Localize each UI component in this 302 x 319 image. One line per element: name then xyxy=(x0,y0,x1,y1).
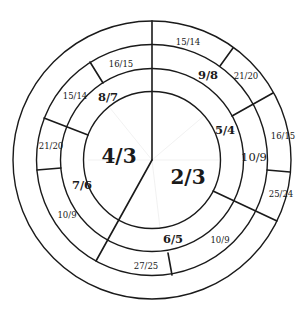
outer-band-label: 25/24 xyxy=(269,189,294,199)
inner-band-label: 8/7 xyxy=(98,90,118,104)
divider-left-upper xyxy=(44,118,88,135)
core-labels: 4/3 2/3 xyxy=(101,144,205,189)
inner-band-label: 5/4 xyxy=(215,123,235,137)
middle-band-label: 10/9 xyxy=(57,210,76,220)
divider-right-middle xyxy=(267,170,290,172)
divider-left-middle xyxy=(37,168,61,170)
divider-lower-left-diagonal xyxy=(96,160,152,261)
divider-right-upper xyxy=(232,93,273,116)
outer-band-label: 16/15 xyxy=(271,131,296,141)
inner-band-label: 7/6 xyxy=(72,178,92,192)
middle-band-label: 15/14 xyxy=(63,91,88,101)
middle-band-label: 10/9 xyxy=(210,235,229,245)
middle-band-label: 16/15 xyxy=(109,59,134,69)
outer-band-label: 21/20 xyxy=(234,71,259,81)
outer-band-label: 15/14 xyxy=(176,37,201,47)
inner-band-label: 6/5 xyxy=(163,232,183,246)
ratio-circle-diagram: 4/3 2/3 8/7 5/4 7/6 6/5 16/15 9/8 15/14 … xyxy=(0,0,302,319)
middle-band-label: 21/20 xyxy=(39,141,64,151)
core-label: 2/3 xyxy=(170,165,205,189)
middle-band-label: 10/9 xyxy=(241,150,267,164)
middle-band-label: 27/25 xyxy=(134,261,159,271)
inner-band-labels: 8/7 5/4 7/6 6/5 xyxy=(72,90,235,246)
core-label: 4/3 xyxy=(101,144,136,168)
divider-upper-right xyxy=(220,48,233,66)
divider-bottom xyxy=(168,253,172,275)
middle-band-label: 9/8 xyxy=(198,68,218,82)
divider-right-lower xyxy=(213,191,277,221)
divider-upper-left xyxy=(90,62,103,83)
